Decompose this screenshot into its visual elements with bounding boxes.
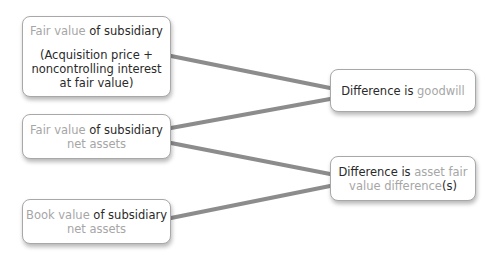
fair-value-net-assets-box: Fair value of subsidiary net assets — [22, 114, 171, 159]
detail-line-2: noncontrolling interest — [31, 62, 161, 76]
label-value-difference: value difference — [349, 179, 442, 193]
label-of-subsidiary: of subsidiary — [86, 24, 163, 38]
fair-value-of-subsidiary-box: Fair value of subsidiary (Acquisition pr… — [22, 16, 171, 97]
asset-fair-value-difference-box: Difference is asset fair value differenc… — [330, 156, 476, 201]
label-of-subsidiary: of subsidiary — [90, 208, 167, 222]
connector-fair-value-net-assets-to-goodwill — [171, 99, 330, 128]
label-fair-value: Fair value — [30, 123, 86, 137]
connector-fair-value-subsidiary-to-goodwill — [171, 56, 330, 88]
label-net-assets: net assets — [67, 222, 126, 236]
detail-line-1: (Acquisition price + — [40, 48, 153, 62]
label-goodwill: goodwill — [417, 84, 465, 98]
book-value-net-assets-box: Book value of subsidiary net assets — [22, 199, 171, 244]
connector-book-value-to-asset-difference — [171, 186, 330, 218]
goodwill-box: Difference is goodwill — [330, 69, 476, 112]
label-plural-s: (s) — [442, 179, 457, 193]
label-fair-value: Fair value — [30, 24, 86, 38]
label-difference-is: Difference is — [341, 84, 417, 98]
label-net-assets: net assets — [67, 137, 126, 151]
connector-fair-value-net-assets-to-asset-difference — [171, 143, 330, 174]
label-of-subsidiary: of subsidiary — [86, 123, 163, 137]
label-asset-fair: asset fair — [414, 165, 467, 179]
label-difference-is: Difference is — [338, 165, 414, 179]
label-book-value: Book value — [26, 208, 90, 222]
box-title: Fair value of subsidiary — [30, 24, 163, 38]
detail-line-3: at fair value) — [60, 76, 134, 90]
